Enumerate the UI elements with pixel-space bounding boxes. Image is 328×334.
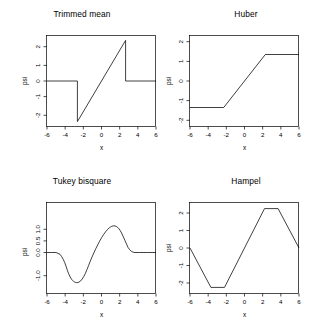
data-series-line xyxy=(47,226,156,283)
x-axis-ticks xyxy=(47,294,156,297)
x-axis-title: x xyxy=(100,144,104,151)
x-tick-label: 4 xyxy=(136,298,140,305)
x-tick-label: -6 xyxy=(44,298,50,305)
y-axis-title: psi xyxy=(165,77,173,85)
y-tick-label: -1 xyxy=(177,262,184,268)
y-tick-label: 0 xyxy=(177,79,184,83)
x-tick-label: 4 xyxy=(136,131,140,138)
x-tick-label: 0 xyxy=(243,131,247,138)
y-tick-label: 0.0 xyxy=(34,248,41,257)
y-axis-ticks xyxy=(44,47,47,116)
y-tick-label: -1 xyxy=(34,93,41,99)
y-tick-label: -2 xyxy=(177,117,184,123)
x-tick-label: -4 xyxy=(205,131,211,138)
x-tick-label: 0 xyxy=(100,298,104,305)
x-tick-label: 6 xyxy=(297,131,301,138)
y-tick-label: -2 xyxy=(177,280,184,286)
x-axis-tick-labels: -6 -4 -2 0 2 4 6 xyxy=(44,131,158,138)
x-tick-label: 2 xyxy=(118,298,122,305)
y-axis-ticks xyxy=(44,229,47,275)
y-axis-tick-labels: -1.0 0.0 0.5 1.0 xyxy=(34,224,41,281)
y-axis-tick-labels: -2 -1 0 1 2 xyxy=(34,44,41,118)
x-tick-label: -6 xyxy=(187,131,193,138)
x-tick-label: -6 xyxy=(187,298,193,305)
x-tick-label: 2 xyxy=(118,131,122,138)
x-tick-label: -2 xyxy=(224,131,230,138)
x-tick-label: -2 xyxy=(81,131,87,138)
x-tick-label: -2 xyxy=(81,298,87,305)
x-axis-ticks xyxy=(190,294,299,297)
y-tick-label: 1.0 xyxy=(34,224,41,233)
data-series-line xyxy=(190,209,299,288)
x-axis-ticks xyxy=(47,127,156,130)
psi-functions-figure: Trimmed mean -6 -4 -2 0 2 4 xyxy=(0,0,328,334)
x-tick-label: -4 xyxy=(205,298,211,305)
y-tick-label: 0 xyxy=(177,246,184,250)
data-series-line xyxy=(47,40,156,121)
y-tick-label: -2 xyxy=(34,112,41,118)
y-axis-ticks xyxy=(187,213,190,283)
y-tick-label: 0.5 xyxy=(34,236,41,245)
x-tick-label: 0 xyxy=(100,131,104,138)
y-tick-label: 1 xyxy=(34,63,41,67)
y-axis-title: psi xyxy=(21,77,29,85)
y-tick-label: 1 xyxy=(177,228,184,232)
x-tick-label: 2 xyxy=(261,131,265,138)
y-axis-ticks xyxy=(187,42,190,121)
x-axis-tick-labels: -6 -4 -2 0 2 4 6 xyxy=(187,298,301,305)
x-tick-label: 4 xyxy=(279,298,283,305)
panel-tukey-bisquare: Tukey bisquare -6 -4 -2 0 2 4 6 x xyxy=(0,167,164,334)
x-tick-label: -4 xyxy=(62,298,68,305)
x-tick-label: 6 xyxy=(154,298,158,305)
panel-trimmed-mean: Trimmed mean -6 -4 -2 0 2 4 xyxy=(0,0,164,167)
plot-frame xyxy=(47,203,156,294)
y-axis-title: psi xyxy=(21,248,29,256)
x-tick-label: 0 xyxy=(243,298,247,305)
x-axis-title: x xyxy=(243,144,247,151)
x-tick-label: -6 xyxy=(44,131,50,138)
y-axis-title: psi xyxy=(165,244,173,252)
x-tick-label: 6 xyxy=(154,131,158,138)
y-tick-label: 1 xyxy=(177,59,184,63)
panel-hampel: Hampel -6 -4 -2 0 2 4 6 x xyxy=(164,167,328,334)
plot-trimmed-mean: -6 -4 -2 0 2 4 6 x -2 -1 0 xyxy=(0,0,164,167)
x-axis-tick-labels: -6 -4 -2 0 2 4 6 xyxy=(187,131,301,138)
data-series-line xyxy=(190,55,299,108)
plot-frame xyxy=(190,36,299,127)
plot-tukey-bisquare: -6 -4 -2 0 2 4 6 x -1.0 0.0 0.5 1.0 xyxy=(0,167,164,334)
plot-hampel: -6 -4 -2 0 2 4 6 x -2 -1 0 1 xyxy=(164,167,328,334)
y-tick-label: 0 xyxy=(34,79,41,83)
y-axis-tick-labels: -2 -1 0 1 2 xyxy=(177,211,184,286)
x-axis-tick-labels: -6 -4 -2 0 2 4 6 xyxy=(44,298,158,305)
x-tick-label: 6 xyxy=(297,298,301,305)
y-tick-label: 2 xyxy=(177,211,184,215)
y-axis-tick-labels: -2 -1 0 1 2 xyxy=(177,39,184,123)
x-axis-title: x xyxy=(243,311,247,318)
x-tick-label: 4 xyxy=(279,131,283,138)
y-tick-label: -1.0 xyxy=(34,270,41,281)
y-tick-label: -1 xyxy=(177,97,184,103)
x-tick-label: -4 xyxy=(62,131,68,138)
x-tick-label: 2 xyxy=(261,298,265,305)
x-axis-ticks xyxy=(190,127,299,130)
y-tick-label: 2 xyxy=(177,39,184,43)
x-tick-label: -2 xyxy=(224,298,230,305)
y-tick-label: 2 xyxy=(34,44,41,48)
panel-huber: Huber -6 -4 -2 0 2 4 6 x xyxy=(164,0,328,167)
x-axis-title: x xyxy=(100,311,104,318)
plot-huber: -6 -4 -2 0 2 4 6 x -2 -1 0 1 2 xyxy=(164,0,328,167)
